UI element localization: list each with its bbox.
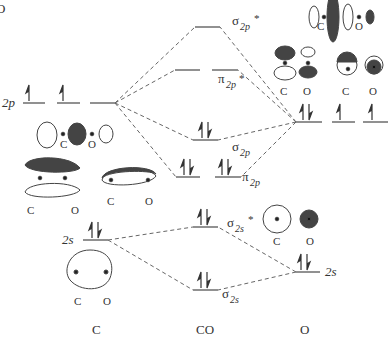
svg-text:C: C (280, 85, 287, 97)
svg-text:σ: σ (232, 13, 239, 28)
mo-label-sigma2p: σ 2p (232, 139, 250, 158)
mo-diagram-svg: O (0, 0, 388, 340)
svg-text:π: π (242, 169, 249, 184)
c-2s-label: 2s (62, 232, 74, 247)
svg-text:σ: σ (232, 139, 239, 154)
svg-text:O: O (355, 20, 363, 32)
svg-text:C: C (27, 204, 34, 216)
o-2s-label: 2s (325, 264, 337, 279)
svg-text:*: * (254, 12, 260, 24)
column-label-o: O (300, 322, 309, 337)
svg-text:O: O (145, 195, 153, 207)
correlation-lines (108, 27, 296, 290)
mo-label-sigma2s-star: σ 2s * (227, 213, 254, 234)
svg-text:O: O (306, 235, 314, 247)
svg-text:2p: 2p (250, 177, 260, 188)
mo-label-pi2p: π 2p (242, 169, 260, 188)
svg-text:2p: 2p (240, 147, 250, 158)
svg-text:*: * (239, 72, 245, 84)
cropped-glyph: O (0, 1, 5, 16)
mo-label-pi2p-star: π 2p * (218, 71, 245, 90)
orbital-sketches (25, 0, 383, 289)
svg-text:2p: 2p (240, 21, 250, 32)
svg-text:2s: 2s (230, 294, 239, 305)
energy-levels (23, 27, 388, 290)
column-label-co: CO (196, 322, 214, 337)
svg-text:*: * (248, 213, 254, 225)
mo-diagram: O (0, 0, 388, 340)
svg-text:C: C (342, 85, 349, 97)
svg-text:C: C (60, 138, 67, 150)
mo-label-sigma2p-star: σ 2p * (232, 12, 260, 32)
svg-text:C: C (107, 195, 114, 207)
svg-text:2p: 2p (226, 79, 236, 90)
svg-text:O: O (71, 204, 79, 216)
c-2p-label: 2p (2, 95, 16, 110)
svg-text:O: O (103, 295, 111, 307)
svg-text:σ: σ (227, 215, 234, 230)
svg-text:2s: 2s (235, 223, 244, 234)
svg-text:O: O (369, 85, 377, 97)
column-label-c: C (92, 322, 101, 337)
svg-text:C: C (317, 20, 324, 32)
svg-text:O: O (88, 138, 96, 150)
svg-text:C: C (74, 295, 81, 307)
mo-label-sigma2s: σ 2s (222, 286, 239, 305)
svg-text:O: O (303, 85, 311, 97)
svg-text:σ: σ (222, 286, 229, 301)
svg-text:π: π (218, 71, 225, 86)
svg-text:C: C (273, 235, 280, 247)
